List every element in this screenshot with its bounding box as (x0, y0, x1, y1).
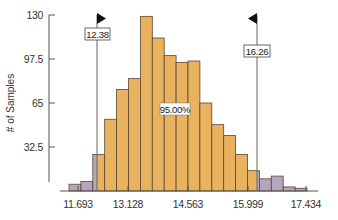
histogram-chart: # of Samples 32.56597.5130 11.69313.1281… (0, 0, 338, 220)
certainty-label: 95.00% (160, 104, 191, 115)
y-tick-label: 32.5 (24, 141, 44, 153)
x-tick-label: 14.563 (173, 198, 204, 210)
y-tick-label: 130 (26, 9, 43, 21)
x-tick-label: 13.128 (113, 198, 144, 210)
y-axis-label: # of Samples (5, 74, 16, 132)
flag-right-icon (97, 13, 106, 24)
flag-left-icon (248, 13, 257, 24)
y-axis-ticks: 32.56597.5130 (24, 9, 55, 153)
lower-cutoff-value: 12.38 (86, 29, 108, 40)
y-tick-label: 65 (32, 97, 44, 109)
x-tick-label: 15.999 (233, 198, 264, 210)
upper-cutoff-value: 16.26 (246, 46, 268, 57)
x-tick-label: 11.693 (63, 198, 93, 210)
y-tick-label: 97.5 (24, 53, 44, 65)
x-tick-label: 17.434 (291, 198, 322, 210)
